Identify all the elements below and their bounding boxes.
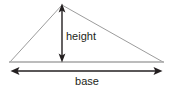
base-arrow: [11, 67, 163, 75]
triangle-left-side: [10, 5, 62, 62]
height-arrow: [59, 4, 66, 63]
triangle-diagram: height base: [0, 0, 172, 89]
height-label: height: [66, 30, 96, 42]
diagram-canvas: height base: [0, 0, 172, 89]
base-label: base: [75, 75, 99, 87]
